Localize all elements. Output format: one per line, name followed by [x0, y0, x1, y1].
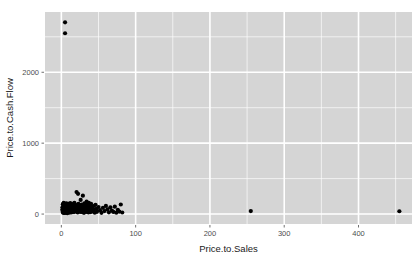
data-point [113, 205, 117, 209]
data-point [119, 202, 123, 206]
data-point [397, 209, 401, 213]
x-tick-label: 0 [59, 229, 63, 238]
data-point [63, 31, 67, 35]
x-axis-title: Price.to.Sales [199, 243, 258, 254]
y-tick-label: 2000 [22, 68, 39, 77]
data-point [76, 192, 80, 196]
plot-panel-background [45, 12, 412, 224]
x-tick-label: 300 [278, 229, 291, 238]
data-point [63, 20, 67, 24]
y-tick-label: 1000 [22, 139, 39, 148]
x-tick-label: 400 [352, 229, 365, 238]
data-point [120, 210, 124, 214]
y-tick-label: 0 [35, 210, 39, 219]
data-point [81, 194, 85, 198]
y-axis-title: Price.to.Cash.Flow [4, 78, 15, 158]
chart-canvas: 0100200300400 010002000 Price.to.Sales P… [0, 0, 418, 259]
x-tick-label: 100 [129, 229, 142, 238]
scatter-plot-figure: 0100200300400 010002000 Price.to.Sales P… [0, 0, 418, 259]
x-tick-label: 200 [204, 229, 217, 238]
data-point [79, 198, 83, 202]
data-point [249, 209, 253, 213]
